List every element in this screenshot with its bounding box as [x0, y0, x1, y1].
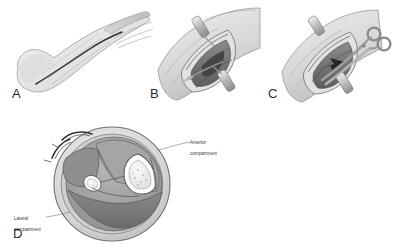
leg-lateral-incision-icon	[8, 8, 158, 103]
figure-container: A	[0, 0, 396, 251]
panel-d: Anterior compartment Lateral compartment…	[4, 118, 244, 248]
scissors-fasciotomy-icon	[278, 8, 394, 103]
panel-b: B	[152, 8, 262, 103]
annotation-anterior-line2: compartment	[190, 151, 217, 156]
panel-letter-b: B	[150, 86, 159, 101]
panel-letter-d: D	[13, 226, 23, 241]
annotation-lateral-line1: Lateral	[14, 216, 28, 221]
panel-letter-a: A	[12, 86, 21, 101]
panel-letter-c: C	[268, 86, 278, 101]
panel-a: A	[8, 8, 158, 103]
retractor-upper	[307, 15, 325, 37]
annotation-anterior-compartment: Anterior compartment	[190, 134, 238, 157]
annotation-anterior-line1: Anterior	[190, 140, 206, 145]
panel-c: C	[278, 8, 394, 103]
leader-line-anterior	[159, 142, 190, 150]
open-wound-retractors-icon	[152, 8, 262, 103]
